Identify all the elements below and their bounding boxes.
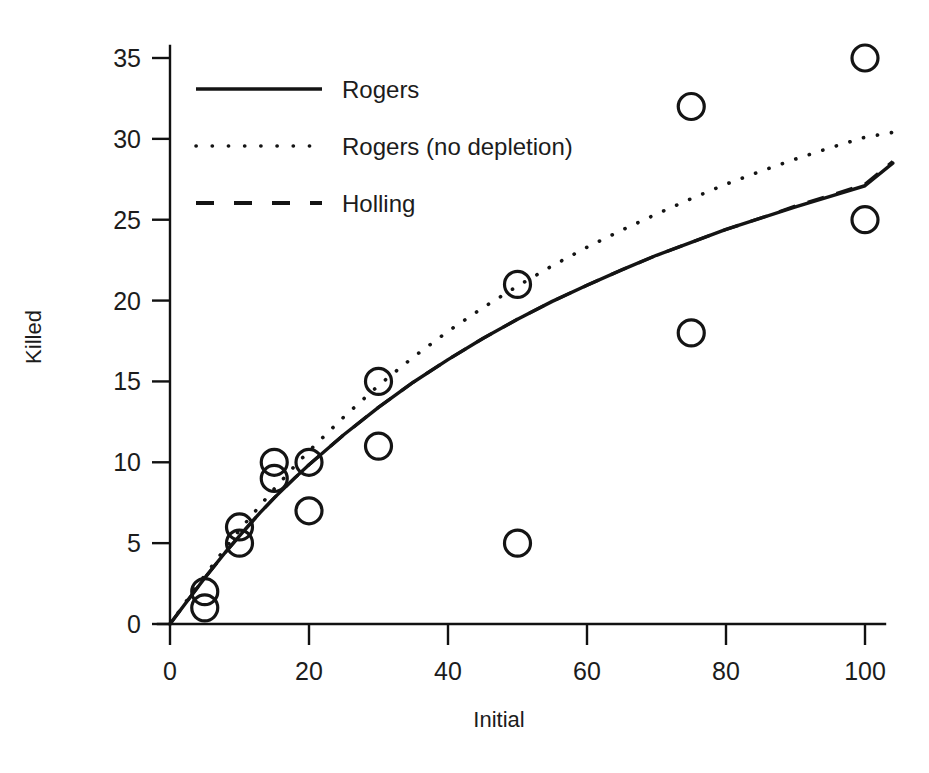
curve-rogers <box>170 163 893 624</box>
y-tick-label: 0 <box>127 610 141 638</box>
fitted-curves-group <box>170 132 893 624</box>
legend-label: Holling <box>342 190 415 217</box>
y-tick-label: 10 <box>113 448 141 476</box>
y-tick-label: 35 <box>113 44 141 72</box>
x-axis-ticks: 020406080100 <box>163 624 886 685</box>
x-axis-title: Initial <box>473 707 524 732</box>
y-tick-label: 30 <box>113 125 141 153</box>
y-tick-label: 5 <box>127 529 141 557</box>
data-points-group <box>192 45 878 621</box>
curve-holling <box>170 162 893 625</box>
legend: RogersRogers (no depletion)Holling <box>196 76 573 217</box>
y-axis-ticks: 05101520253035 <box>113 44 170 638</box>
x-tick-label: 40 <box>434 657 462 685</box>
x-tick-label: 100 <box>844 657 886 685</box>
curve-rogers-no-depletion <box>170 132 893 624</box>
data-point <box>192 595 218 621</box>
x-tick-label: 60 <box>573 657 601 685</box>
data-point <box>296 498 322 524</box>
data-point <box>505 271 531 297</box>
data-point <box>852 207 878 233</box>
y-tick-label: 20 <box>113 287 141 315</box>
x-tick-label: 0 <box>163 657 177 685</box>
data-point <box>505 530 531 556</box>
data-point <box>366 368 392 394</box>
scatter-plot-figure: 05101520253035 020406080100 Initial Kill… <box>0 0 929 773</box>
legend-label: Rogers (no depletion) <box>342 133 573 160</box>
data-point <box>678 94 704 120</box>
data-point <box>678 320 704 346</box>
legend-label: Rogers <box>342 76 419 103</box>
data-point <box>852 45 878 71</box>
plot-canvas: 05101520253035 020406080100 Initial Kill… <box>0 0 929 773</box>
data-point <box>296 449 322 475</box>
y-tick-label: 15 <box>113 367 141 395</box>
y-tick-label: 25 <box>113 206 141 234</box>
data-point <box>366 433 392 459</box>
x-tick-label: 20 <box>295 657 323 685</box>
y-axis-title: Killed <box>21 310 46 364</box>
x-tick-label: 80 <box>712 657 740 685</box>
